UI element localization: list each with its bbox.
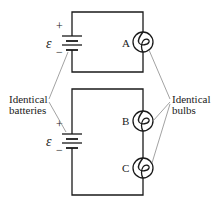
bulbs-annotation-line2: bulbs [172, 104, 196, 116]
bottom-circuit [62, 89, 153, 195]
emf-label: ε [46, 36, 52, 51]
top-circuit [62, 12, 153, 72]
battery-plus-sign: + [56, 117, 63, 131]
battery-minus-sign: − [56, 45, 63, 59]
bulb-a-label: A [122, 37, 130, 49]
bulb-b-label: B [122, 115, 129, 127]
circuit-diagram: + − ε A + − ε B C Identical ba [0, 0, 219, 204]
emf-label: ε [46, 134, 52, 149]
bulb-icon [133, 32, 153, 52]
bottom-circuit-wire-bottom [72, 148, 143, 195]
battery-plus-sign: + [56, 19, 63, 33]
top-circuit-wire [72, 12, 143, 36]
bulb-icon [133, 111, 153, 131]
bulb-icon [133, 158, 153, 178]
batteries-annotation-line2: batteries [9, 104, 46, 116]
battery-icon [62, 36, 82, 50]
bottom-circuit-wire [72, 89, 143, 134]
bulb-c-label: C [122, 162, 129, 174]
battery-minus-sign: − [56, 143, 63, 157]
battery-icon [62, 134, 82, 148]
top-circuit-wire-bottom [72, 50, 143, 72]
leader-lines [49, 50, 170, 163]
